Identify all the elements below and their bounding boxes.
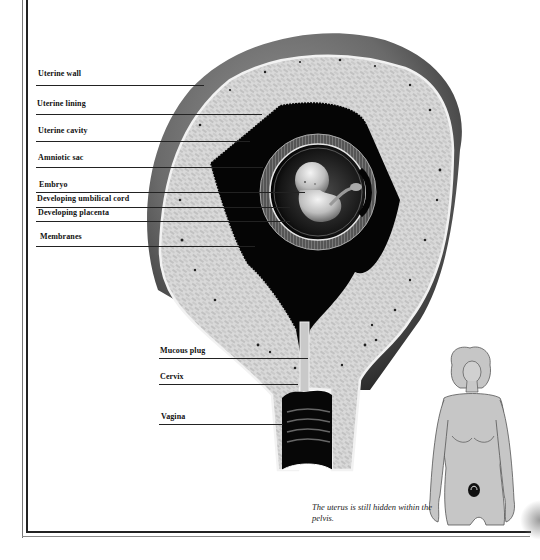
inset-female-figure	[429, 347, 514, 525]
leader-line-mucous-plug	[159, 358, 308, 359]
label-cervix: Cervix	[160, 372, 184, 381]
label-uterine-cavity: Uterine cavity	[38, 126, 88, 135]
leader-line-membranes	[36, 246, 255, 247]
uterus-location-marker	[468, 483, 480, 497]
label-developing-umbilical-cord: Developing umbilical cord	[37, 194, 129, 203]
leader-line-vagina	[159, 424, 283, 425]
mucous-plug	[300, 322, 309, 392]
label-developing-placenta: Developing placenta	[38, 208, 109, 217]
inset-caption: The uterus is still hidden within the pe…	[312, 502, 432, 524]
label-membranes: Membranes	[40, 232, 82, 241]
leader-line-embryo	[36, 192, 305, 193]
label-uterine-lining: Uterine lining	[37, 99, 86, 108]
leader-line-uterine-wall	[36, 85, 204, 86]
leader-line-placenta	[36, 221, 290, 222]
label-embryo: Embryo	[39, 180, 68, 189]
leader-line-uterine-lining	[36, 114, 262, 115]
label-amniotic-sac: Amniotic sac	[38, 153, 83, 162]
label-uterine-wall: Uterine wall	[38, 69, 81, 78]
label-mucous-plug: Mucous plug	[160, 346, 205, 355]
label-vagina: Vagina	[161, 412, 185, 421]
leader-line-amniotic-sac	[36, 167, 263, 168]
leader-line-cervix	[159, 384, 298, 385]
leader-line-uterine-cavity	[36, 141, 250, 142]
